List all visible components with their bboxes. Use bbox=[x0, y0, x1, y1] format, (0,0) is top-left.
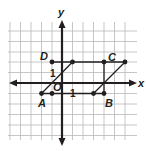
point-bottom-mid bbox=[91, 91, 96, 96]
point-label-c: C bbox=[108, 51, 117, 63]
point-b bbox=[102, 91, 107, 96]
x-unit-label: 1 bbox=[70, 88, 76, 99]
y-unit-label: 1 bbox=[50, 68, 56, 79]
point-top-right bbox=[123, 60, 128, 65]
y-axis-label: y bbox=[57, 6, 65, 18]
segment-right-diagonal bbox=[94, 62, 126, 94]
y-axis-down-arrow-icon bbox=[59, 138, 66, 146]
coordinate-plane-diagram: y x D C A B O 1 1 bbox=[0, 0, 146, 151]
point-c bbox=[102, 60, 107, 65]
point-top-1 bbox=[70, 60, 75, 65]
x-axis-label: x bbox=[137, 77, 145, 89]
origin-label: O bbox=[53, 81, 62, 93]
point-d bbox=[50, 60, 55, 65]
point-label-b: B bbox=[105, 97, 113, 109]
point-a bbox=[39, 91, 44, 96]
point-label-a: A bbox=[37, 97, 46, 109]
y-axis-up-arrow-icon bbox=[59, 20, 66, 28]
axes bbox=[9, 20, 137, 146]
x-axis-right-arrow-icon bbox=[129, 80, 137, 87]
point-label-d: D bbox=[40, 50, 48, 62]
grid bbox=[8, 22, 137, 140]
coordinate-plane-svg: y x D C A B O 1 1 bbox=[0, 0, 146, 151]
